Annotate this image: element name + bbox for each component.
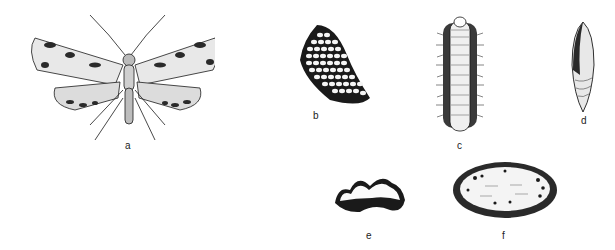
panel-label-f: f xyxy=(502,230,505,241)
egg-mass-illustration: b xyxy=(295,20,375,120)
larva-illustration: c xyxy=(435,15,485,155)
pupa-illustration: d xyxy=(568,20,598,130)
panel-label-c: c xyxy=(457,140,462,151)
panel-label-b: b xyxy=(313,110,319,121)
panel-label-a: a xyxy=(125,140,131,151)
cocoon-top-illustration: f xyxy=(450,158,560,250)
cocoon-side-illustration: e xyxy=(330,168,410,248)
moth-adult-illustration: a xyxy=(15,10,215,150)
panel-label-e: e xyxy=(366,230,372,241)
panel-label-d: d xyxy=(581,115,587,126)
